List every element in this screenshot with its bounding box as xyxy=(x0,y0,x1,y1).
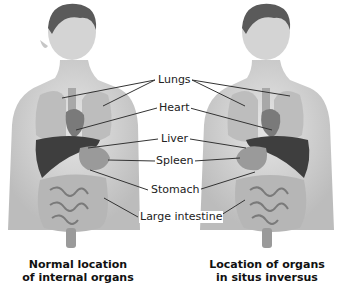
left-body-figure xyxy=(8,4,140,248)
caption-normal-line1: Normal location xyxy=(3,258,153,271)
label-heart: Heart xyxy=(158,102,191,114)
label-spleen: Spleen xyxy=(155,155,195,167)
label-stomach: Stomach xyxy=(150,184,201,196)
label-lungs: Lungs xyxy=(157,74,192,86)
label-large-intestine: Large intestine xyxy=(139,211,223,223)
caption-inversus-line1: Location of organs xyxy=(192,258,342,271)
caption-situs-inversus: Location of organs in situs inversus xyxy=(192,258,342,284)
caption-inversus-line2: in situs inversus xyxy=(192,271,342,284)
caption-normal-location: Normal location of internal organs xyxy=(3,258,153,284)
diagram-canvas: Lungs Heart Liver Spleen Stomach Large i… xyxy=(0,0,342,285)
caption-normal-line2: of internal organs xyxy=(3,271,153,284)
label-liver: Liver xyxy=(160,133,189,145)
